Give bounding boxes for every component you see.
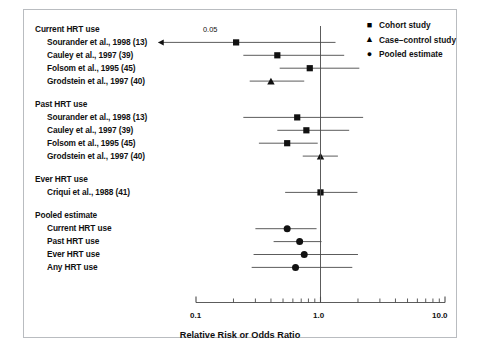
row-label-ever-hrt-use-3-2: Ever HRT use [47,250,100,259]
axis-tick-label-left: 0.1 [190,311,201,320]
group-heading-ever-hrt-use: Ever HRT use [35,175,88,184]
axis-tick-label-mid: 1.0 [313,311,324,320]
row-label-any-hrt-use-3-3: Any HRT use [47,263,98,272]
row-label-grodstein-et-al-1997-40-1-3: Grodstein et al., 1997 (40) [47,152,145,161]
row-label-past-hrt-use-3-1: Past HRT use [47,237,99,246]
legend: ■Cohort study▲Case–control study●Pooled … [364,18,456,62]
row-label-cauley-et-al-1997-39-0-1: Cauley et al., 1997 (39) [47,51,133,60]
row-label-grodstein-et-al-1997-40-0-3: Grodstein et al., 1997 (40) [47,77,145,86]
legend-item-label: Cohort study [379,18,431,33]
group-heading-past-hrt-use: Past HRT use [35,100,87,109]
legend-item-case-control-study: ▲Case–control study [364,33,456,48]
group-heading-current-hrt-use: Current HRT use [35,25,99,34]
legend-triangle-icon: ▲ [364,35,375,44]
row-label-sourander-et-al-1998-13-1-0: Sourander et al., 1998 (13) [47,113,147,122]
legend-square-icon: ■ [364,21,375,30]
row-label-cauley-et-al-1997-39-1-1: Cauley et al., 1997 (39) [47,126,133,135]
group-heading-pooled-estimate: Pooled estimate [35,211,97,220]
axis-tick-label-right: 10.0 [432,311,448,320]
legend-item-pooled-estimate: ●Pooled estimate [364,47,456,62]
legend-item-cohort-study: ■Cohort study [364,18,456,33]
row-label-folsom-et-al-1995-45-0-2: Folsom et al., 1995 (45) [47,64,135,73]
legend-item-label: Case–control study [379,33,456,48]
legend-item-label: Pooled estimate [379,47,443,62]
row-label-criqui-et-al-1988-41-2-0: Criqui et al., 1988 (41) [47,188,130,197]
forest-plot-figure: Current HRT useSourander et al., 1998 (1… [0,0,480,352]
x-axis-title: Relative Risk or Odds Ratio [180,330,301,340]
clipped-ci-annotation: 0.05 [203,25,217,34]
row-label-sourander-et-al-1998-13-0-0: Sourander et al., 1998 (13) [47,38,147,47]
row-label-current-hrt-use-3-0: Current HRT use [47,224,111,233]
row-label-folsom-et-al-1995-45-1-2: Folsom et al., 1995 (45) [47,139,135,148]
legend-circle-icon: ● [364,50,375,59]
